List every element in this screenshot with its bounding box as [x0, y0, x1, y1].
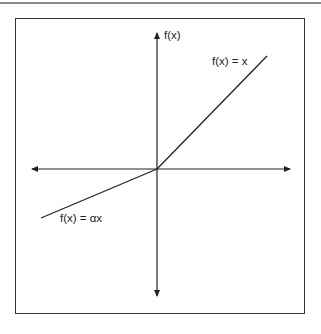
leaky-relu-plot	[0, 0, 321, 334]
y-axis-label: f(x)	[164, 30, 181, 42]
negative-branch-line	[41, 169, 157, 218]
positive-branch-label: f(x) = x	[212, 56, 247, 68]
negative-branch-label: f(x) = αx	[60, 213, 102, 225]
positive-branch-line	[157, 56, 267, 169]
